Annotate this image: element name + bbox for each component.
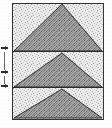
margin-mark-middle xyxy=(1,70,8,74)
figure-plate xyxy=(12,3,104,120)
margin-mark-arrow-icon xyxy=(5,70,8,74)
margin-rule-lower xyxy=(4,76,5,84)
margin-mark-arrow-icon xyxy=(5,84,8,88)
plate-drawing xyxy=(13,4,103,119)
margin-rule-upper xyxy=(4,52,5,70)
figure-root xyxy=(0,0,112,128)
margin-mark-arrow-icon xyxy=(5,46,8,50)
margin-mark-lower xyxy=(1,84,8,88)
margin-mark-upper xyxy=(1,46,8,50)
margin-mark-group xyxy=(0,0,12,128)
